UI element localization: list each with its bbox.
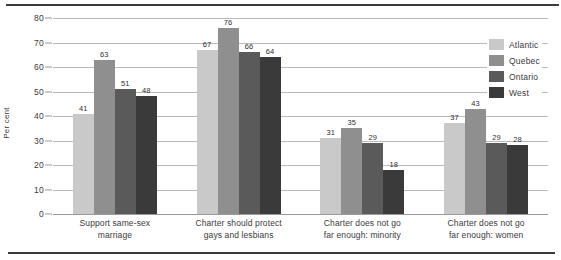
bar-group: 31352918 [301, 18, 425, 214]
y-axis-tick-label: 20 [34, 160, 44, 170]
y-axis-tick-mark [45, 189, 52, 190]
bar [197, 50, 218, 214]
bar-column: 43 [465, 18, 486, 214]
bar-group-bars: 31352918 [301, 18, 425, 214]
x-axis-category-label-line: far enough: minority [301, 230, 425, 242]
y-axis-tick-mark [45, 91, 52, 92]
bar-column: 35 [341, 18, 362, 214]
legend-item-label: Atlantic [509, 40, 538, 50]
legend-item-label: Ontario [509, 72, 538, 82]
y-axis-tick-label: 10 [34, 185, 44, 195]
bar-value-label: 43 [471, 99, 480, 108]
x-axis-category-label-line: far enough: women [424, 230, 548, 242]
bar-group-bars: 41635148 [53, 18, 177, 214]
bar [383, 170, 404, 214]
bar [486, 143, 507, 214]
legend-item-west: West [489, 87, 540, 98]
bottom-divider-rule [8, 252, 555, 254]
bar [362, 143, 383, 214]
y-axis-tick-label: 30 [34, 136, 44, 146]
x-axis-category-labels: Support same-sexmarriageCharter should p… [53, 218, 548, 241]
bar-column: 66 [239, 18, 260, 214]
y-axis-tick-label: 80 [34, 13, 44, 23]
top-divider-rule [6, 4, 559, 6]
bar-column: 37 [444, 18, 465, 214]
bar-chart: Per cent 01020304050607080 4163514867766… [0, 10, 561, 245]
bar-value-label: 51 [121, 79, 130, 88]
bar-value-label: 66 [245, 42, 254, 51]
x-axis-category-label: Charter does not gofar enough: minority [301, 218, 425, 241]
bar-value-label: 41 [79, 104, 88, 113]
y-axis-title: Per cent [2, 88, 11, 158]
bar-value-label: 48 [142, 86, 151, 95]
bar-column: 29 [362, 18, 383, 214]
bar-value-label: 18 [390, 160, 399, 169]
bar-group: 67766664 [177, 18, 301, 214]
legend-item-quebec: Quebec [489, 55, 540, 66]
legend-item-ontario: Ontario [489, 71, 540, 82]
bar-value-label: 37 [450, 113, 459, 122]
x-axis-category-label-line: Charter does not go [424, 218, 548, 230]
x-axis-category-label-line: Support same-sex [53, 218, 177, 230]
bar [73, 114, 94, 214]
y-axis-tick-mark [45, 140, 52, 141]
y-axis-tick-label: 0 [39, 209, 44, 219]
y-axis-tick-mark [45, 42, 52, 43]
bar-value-label: 29 [492, 133, 501, 142]
bar-column: 41 [73, 18, 94, 214]
y-axis-tick-mark [45, 165, 52, 166]
x-axis-category-label-line: gays and lesbians [177, 230, 301, 242]
bar [94, 60, 115, 214]
bar [115, 89, 136, 214]
x-axis-category-label: Charter should protectgays and lesbians [177, 218, 301, 241]
plot-area: 01020304050607080 4163514867766664313529… [53, 18, 548, 214]
bar [507, 145, 528, 214]
bar-column: 76 [218, 18, 239, 214]
bar [444, 123, 465, 214]
legend-item-label: Quebec [509, 56, 540, 66]
x-axis-category-label-line: Charter should protect [177, 218, 301, 230]
bar-value-label: 67 [203, 40, 212, 49]
bar [320, 138, 341, 214]
x-axis-category-label-line: Charter does not go [301, 218, 425, 230]
legend-item-label: West [509, 88, 529, 98]
bar-value-label: 64 [266, 47, 275, 56]
bar-column: 63 [94, 18, 115, 214]
bar-value-label: 76 [224, 18, 233, 27]
y-axis-tick-mark [45, 214, 52, 215]
legend-color-swatch [489, 39, 504, 50]
bar [239, 52, 260, 214]
bar-column: 67 [197, 18, 218, 214]
bar-value-label: 28 [513, 135, 522, 144]
bar [465, 109, 486, 214]
legend-color-swatch [489, 55, 504, 66]
bar-column: 64 [260, 18, 281, 214]
bar [341, 128, 362, 214]
bar-group-bars: 67766664 [177, 18, 301, 214]
bar [136, 96, 157, 214]
bar-groups: 41635148677666643135291837432928 [53, 18, 548, 214]
chart-legend: AtlanticQuebecOntarioWest [487, 37, 542, 100]
bar [260, 57, 281, 214]
y-axis-tick-label: 40 [34, 111, 44, 121]
legend-color-swatch [489, 71, 504, 82]
gridline [53, 214, 548, 215]
bar-group: 41635148 [53, 18, 177, 214]
legend-item-atlantic: Atlantic [489, 39, 540, 50]
bar-value-label: 29 [369, 133, 378, 142]
bar [218, 28, 239, 214]
bar-column: 48 [136, 18, 157, 214]
bar-column: 31 [320, 18, 341, 214]
x-axis-category-label-line: marriage [53, 230, 177, 242]
y-axis-tick-label: 60 [34, 62, 44, 72]
y-axis-tick-mark [45, 116, 52, 117]
bar-value-label: 31 [327, 128, 336, 137]
bar-value-label: 63 [100, 50, 109, 59]
y-axis-tick-label: 70 [34, 38, 44, 48]
bar-column: 51 [115, 18, 136, 214]
y-axis-tick-mark [45, 18, 52, 19]
legend-color-swatch [489, 87, 504, 98]
y-axis-tick-label: 50 [34, 87, 44, 97]
bar-value-label: 35 [348, 118, 357, 127]
y-axis-tick-mark [45, 67, 52, 68]
